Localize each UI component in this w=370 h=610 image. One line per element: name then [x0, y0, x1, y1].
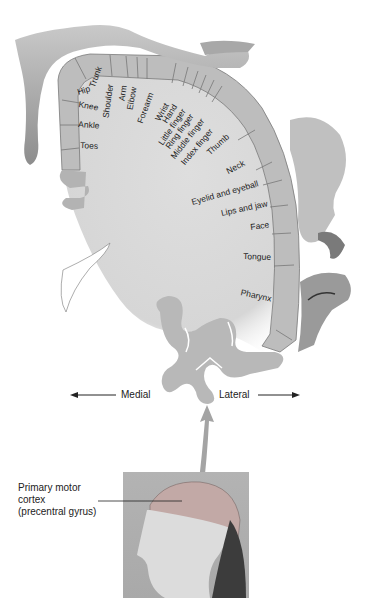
label-lateral: Lateral: [219, 389, 250, 400]
pharynx-section: [298, 273, 351, 352]
arrow-left-icon: [70, 392, 78, 398]
caption-line-1: Primary motor: [18, 482, 96, 494]
diagram-artwork: [0, 0, 370, 610]
label-tongue: Tongue: [243, 252, 271, 261]
orientation-arrows: [70, 392, 300, 398]
label-medial: Medial: [121, 389, 150, 400]
ventricle-outline: [61, 243, 110, 312]
caption-line-2: cortex: [18, 494, 96, 506]
motor-homunculus-diagram: Hip Trunk Knee Shoulder Arm Elbow Ankle …: [0, 0, 370, 610]
tongue-shape: [318, 232, 345, 259]
caption-line-3: (precentral gyrus): [18, 506, 96, 518]
face-profile: [290, 117, 346, 242]
label-ankle: Ankle: [78, 120, 100, 130]
inset-head-image: [98, 472, 249, 598]
label-toes: Toes: [80, 141, 98, 150]
inset-caption: Primary motor cortex (precentral gyrus): [18, 482, 96, 518]
arrow-right-icon: [292, 392, 300, 398]
